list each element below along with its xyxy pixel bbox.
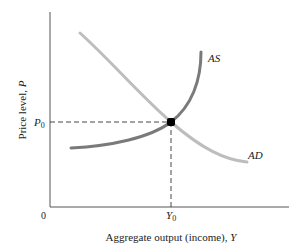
ad-label: AD	[247, 149, 263, 161]
x-axis-title: Aggregate output (income), Y	[106, 231, 239, 244]
origin-label: 0	[41, 210, 46, 221]
equilibrium-point	[167, 118, 175, 126]
as-label: AS	[207, 52, 221, 64]
y0-label: Y0	[166, 209, 176, 223]
as-ad-chart: AS AD P0 Y0 0 Aggregate output (income),…	[0, 0, 302, 252]
chart-canvas: AS AD P0 Y0 0 Aggregate output (income),…	[0, 0, 302, 252]
p0-label: P0	[33, 116, 45, 130]
y-axis-title: Price level, P	[16, 80, 28, 139]
as-curve	[71, 52, 201, 148]
ad-curve	[80, 33, 247, 162]
